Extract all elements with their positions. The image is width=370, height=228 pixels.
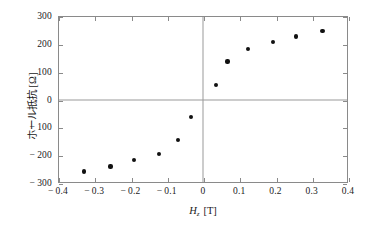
- x-tick-mark: [240, 17, 241, 21]
- x-tick-mark: [313, 17, 314, 21]
- zero-line-vertical: [203, 17, 204, 182]
- data-point: [294, 34, 298, 38]
- y-axis-unit: [Ω]: [27, 73, 38, 88]
- y-tick-mark: [343, 45, 347, 46]
- data-point: [108, 164, 112, 168]
- y-tick-mark: [343, 73, 347, 74]
- x-axis-symbol: H: [189, 205, 197, 216]
- x-tick-label: 0.1: [233, 186, 245, 196]
- data-point: [271, 40, 275, 44]
- x-axis-title: Hz[T]: [189, 205, 217, 218]
- data-point: [157, 152, 161, 156]
- y-axis-title: ホール抵抗[Ω]: [24, 27, 39, 187]
- y-tick-mark: [59, 73, 63, 74]
- data-point: [214, 83, 218, 87]
- plot-area: [58, 16, 348, 183]
- x-tick-mark: [277, 178, 278, 182]
- x-tick-mark: [349, 17, 350, 21]
- x-tick-label: 0: [201, 186, 206, 196]
- x-tick-mark: [277, 17, 278, 21]
- data-point: [82, 169, 86, 173]
- x-tick-mark: [95, 17, 96, 21]
- data-point: [320, 29, 324, 33]
- data-point: [189, 115, 193, 119]
- x-axis-unit: [T]: [203, 205, 216, 216]
- y-tick-mark: [59, 128, 63, 129]
- x-tick-mark: [168, 17, 169, 21]
- x-tick-label: 0.4: [342, 186, 354, 196]
- data-point: [132, 158, 136, 162]
- y-tick-mark: [343, 101, 347, 102]
- x-tick-mark: [132, 17, 133, 21]
- x-tick-mark: [349, 178, 350, 182]
- x-axis-subscript: z: [197, 210, 200, 218]
- y-tick-mark: [59, 156, 63, 157]
- y-tick-mark: [343, 128, 347, 129]
- x-tick-mark: [240, 178, 241, 182]
- x-tick-label: − 0.1: [157, 186, 177, 196]
- x-tick-mark: [132, 178, 133, 182]
- hall-resistance-chart: − 0.4− 0.3− 0.2− 0.100.10.20.30.4 300200…: [0, 0, 370, 228]
- y-tick-mark: [343, 17, 347, 18]
- x-tick-mark: [59, 178, 60, 182]
- x-tick-mark: [204, 17, 205, 21]
- y-tick-mark: [59, 45, 63, 46]
- x-tick-label: 0.2: [269, 186, 281, 196]
- data-point: [225, 59, 229, 63]
- x-tick-mark: [95, 178, 96, 182]
- data-point: [176, 138, 180, 142]
- x-tick-label: − 0.3: [84, 186, 104, 196]
- y-tick-mark: [343, 184, 347, 185]
- y-tick-mark: [59, 101, 63, 102]
- y-tick-label: 300: [37, 11, 52, 21]
- y-tick-mark: [343, 156, 347, 157]
- y-tick-label: 200: [37, 39, 52, 49]
- x-tick-mark: [204, 178, 205, 182]
- y-tick-mark: [59, 17, 63, 18]
- y-tick-label: 0: [47, 95, 52, 105]
- y-tick-label: 100: [37, 67, 52, 77]
- x-tick-mark: [313, 178, 314, 182]
- x-tick-label: − 0.2: [120, 186, 140, 196]
- data-point: [246, 47, 250, 51]
- y-axis-text: ホール抵抗: [27, 90, 38, 140]
- x-tick-mark: [168, 178, 169, 182]
- x-tick-label: 0.3: [306, 186, 318, 196]
- y-tick-mark: [59, 184, 63, 185]
